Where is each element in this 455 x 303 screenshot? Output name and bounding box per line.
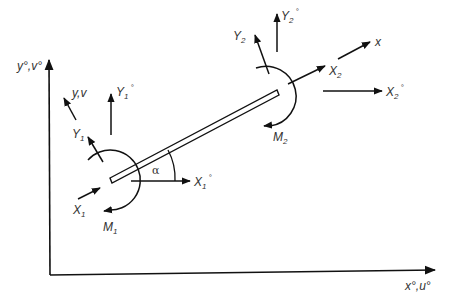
- global-y-axis: [49, 60, 50, 275]
- m1-label: M1: [103, 220, 117, 236]
- x1-label: X1: [72, 203, 85, 219]
- local-x-axis-label: x: [374, 35, 382, 49]
- beam-element: [110, 90, 279, 183]
- angle-alpha-arc: [168, 150, 175, 181]
- local-y-axis-label: y,v: [71, 86, 87, 100]
- y2-global-label: Y2°: [281, 7, 299, 25]
- global-x-axis-label: x°,u°: [404, 279, 431, 293]
- y2-label: Y2: [233, 29, 246, 45]
- angle-alpha-label: α: [152, 164, 160, 177]
- node-2: M2 Y2 Y2° X2 X2°: [233, 7, 404, 146]
- y1-label: Y1: [72, 127, 84, 143]
- x2-label: X2: [328, 64, 342, 80]
- global-y-axis-label: y°,v°: [16, 59, 42, 73]
- beam-diagram: y°,v° x°,u° y,v x M1 Y1 Y1° X1 X1° α: [0, 0, 455, 303]
- x2-global-label: X2°: [385, 83, 404, 101]
- local-y-axis-arrow: [64, 98, 76, 120]
- node-1: M1 Y1 Y1° X1 X1° α: [72, 83, 212, 236]
- x2-force-arrow: [288, 66, 325, 84]
- global-x-axis: [50, 270, 435, 275]
- x1-global-label: X1°: [193, 173, 212, 191]
- m2-label: M2: [273, 130, 288, 146]
- x1-force-arrow: [78, 188, 100, 199]
- y1-global-label: Y1°: [116, 83, 134, 101]
- local-x-axis-arrow: [338, 42, 370, 59]
